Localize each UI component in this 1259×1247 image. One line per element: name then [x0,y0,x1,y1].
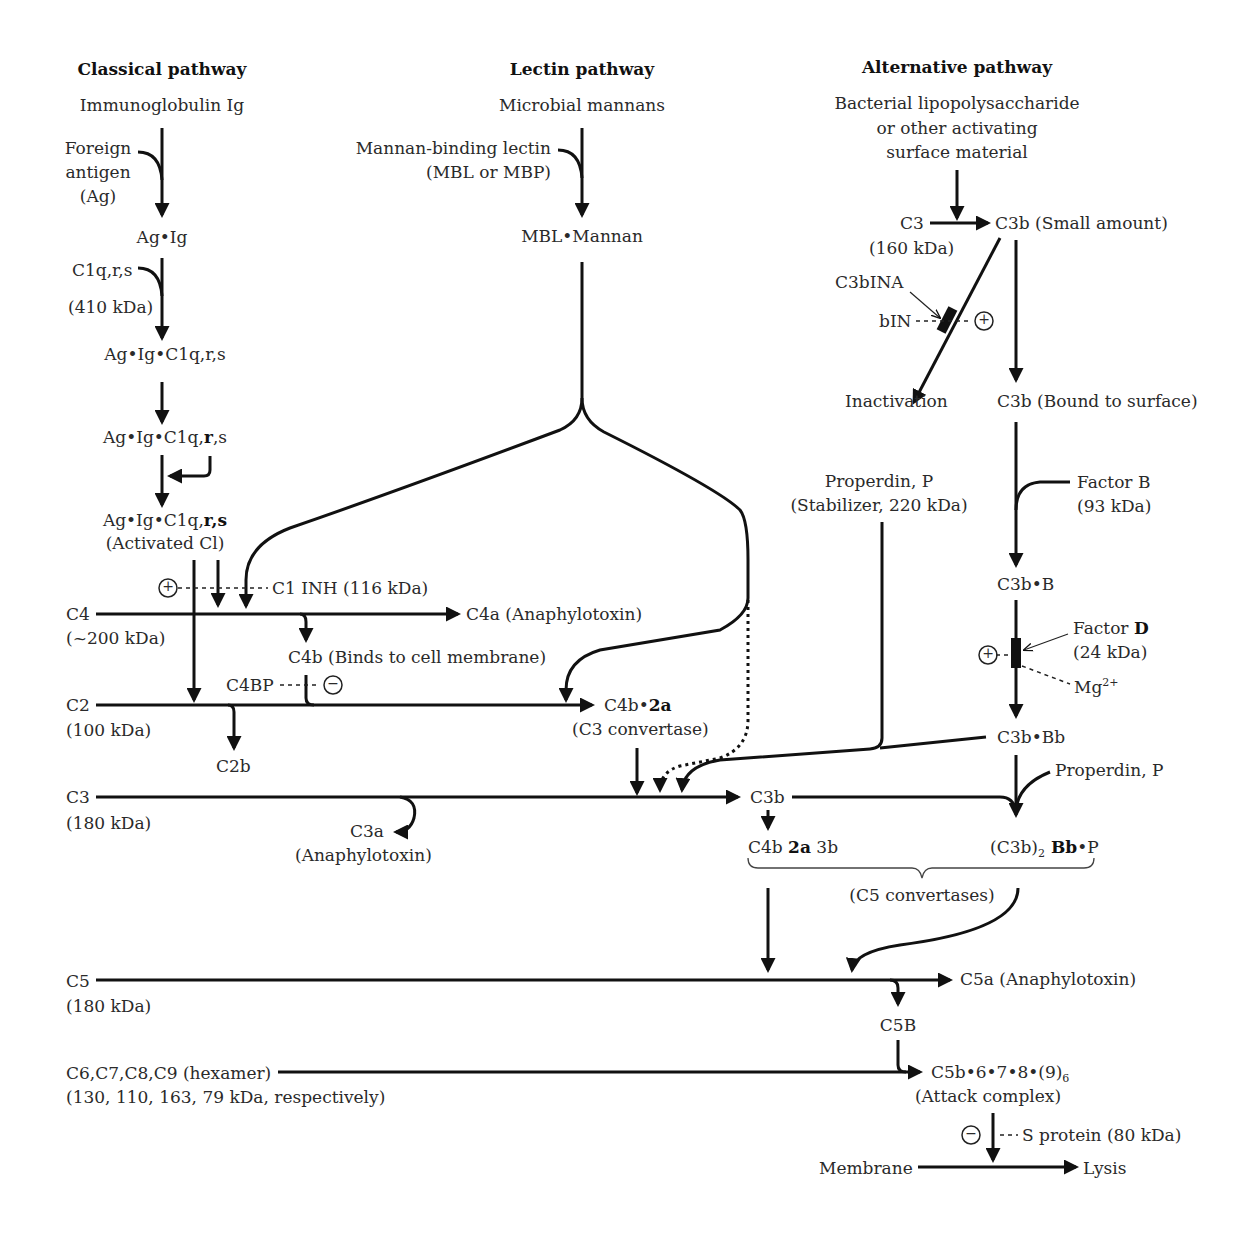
c4-mass: (~200 kDa) [66,627,165,650]
c3b2-bb-p: (C3b)2 Bb•P [990,836,1099,862]
foreign-antigen-2: antigen [65,161,130,184]
ag-ig-c1qrs: Ag•Ig•C1q,r,s [104,343,225,366]
lps-3: surface material [886,141,1028,164]
alt-c3-mass: (160 kDa) [869,237,954,260]
c5b: C5B [880,1014,916,1037]
lysis: Lysis [1083,1157,1126,1180]
properdin-note: (Stabilizer, 220 kDa) [790,494,967,517]
header-alternative: Alternative pathway [862,56,1052,79]
mbl: Mannan-binding lectin [356,137,551,160]
lps-1: Bacterial lipopolysaccharide [834,92,1079,115]
microbial-mannans: Microbial mannans [499,94,665,117]
bin: bIN [879,310,911,333]
c3: C3 [66,786,90,809]
factor-b: Factor B [1077,471,1150,494]
c5-convertases: (C5 convertases) [849,884,994,907]
properdin-2: Properdin, P [1055,759,1163,782]
minus-icon: − [327,674,339,693]
c3-convertase: (C3 convertase) [572,718,709,741]
lps-2: or other activating [876,117,1037,140]
c1qrs-mass: (410 kDa) [68,296,153,319]
foreign-antigen-3: (Ag) [80,185,116,208]
c4b2a: C4b•2a [604,694,672,717]
membrane: Membrane [819,1157,913,1180]
c6-c9: C6,C7,C8,C9 (hexamer) [66,1062,271,1085]
c4bp: C4BP [226,674,274,697]
attack-complex: C5b•6•7•8•(9)6 [931,1061,1069,1087]
plus-icon: + [978,310,990,329]
c4b: C4b (Binds to cell membrane) [288,646,546,669]
c1qrs: C1q,r,s [72,259,133,282]
c2: C2 [66,694,90,717]
minus-icon: − [965,1124,977,1143]
header-classical: Classical pathway [78,58,247,81]
ag-ig-c1q-r-s: Ag•Ig•C1q,r,s [103,426,227,449]
c4a: C4a (Anaphylotoxin) [466,603,642,626]
c5: C5 [66,970,90,993]
foreign-antigen-1: Foreign [65,137,132,160]
c3b: C3b [750,786,785,809]
plus-icon: + [162,577,174,596]
c3bina: C3bINA [835,271,904,294]
c3a: C3a [350,820,384,843]
c1-inh: C1 INH (116 kDa) [272,577,428,600]
factor-d: Factor D [1073,617,1149,640]
mbl-alt: (MBL or MBP) [426,161,551,184]
alt-c3: C3 [900,212,924,235]
c3b-small: C3b (Small amount) [995,212,1168,235]
c4b2a3b: C4b 2a 3b [748,836,838,859]
c6-c9-mass: (130, 110, 163, 79 kDa, respectively) [66,1086,385,1109]
activated-c1: (Activated Cl) [106,532,225,555]
ag-ig-c1q-rs-activated: Ag•Ig•C1q,r,s [103,509,227,532]
c2-mass: (100 kDa) [66,719,151,742]
factor-b-mass: (93 kDa) [1077,495,1151,518]
c3b-bound: C3b (Bound to surface) [997,390,1198,413]
c4: C4 [66,603,90,626]
mg2plus: Mg2+ [1074,676,1119,699]
attack-complex-note: (Attack complex) [915,1085,1061,1108]
c3-mass: (180 kDa) [66,812,151,835]
ag-ig: Ag•Ig [137,226,188,249]
properdin: Properdin, P [825,470,933,493]
factor-d-mass: (24 kDa) [1073,641,1147,664]
c3a-note: (Anaphylotoxin) [295,844,432,867]
immunoglobulin: Immunoglobulin Ig [80,94,244,117]
mbl-mannan: MBL•Mannan [521,225,643,248]
s-protein: S protein (80 kDa) [1022,1124,1181,1147]
c3b-bb: C3b•Bb [997,726,1065,749]
inactivation: Inactivation [845,390,948,413]
complement-pathway-diagram: + − + + − Classical pathway Lectin pathw… [0,0,1259,1247]
header-lectin: Lectin pathway [510,58,654,81]
plus-icon: + [982,644,994,663]
c2b: C2b [216,755,251,778]
c3b-b: C3b•B [997,573,1054,596]
c5-mass: (180 kDa) [66,995,151,1018]
c5a: C5a (Anaphylotoxin) [960,968,1136,991]
